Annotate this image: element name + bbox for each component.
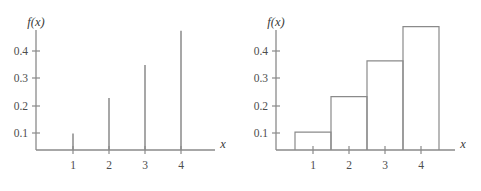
histogram-panel: 0.1 0.2 0.3 0.4 1 2 3 4 f(x) x (240, 0, 480, 191)
right-xtick-label-1: 1 (310, 159, 316, 171)
left-ytick-label-3: 0.3 (14, 72, 29, 84)
left-ytick-label-2: 0.2 (14, 100, 29, 112)
histogram-bar-3 (367, 61, 403, 150)
histogram-bar-2 (331, 97, 367, 150)
left-ytick-label-4: 0.4 (14, 45, 29, 57)
stem-plot-svg: 0.1 0.2 0.3 0.4 1 2 3 4 f(x) x (0, 0, 240, 191)
histogram-bar-4 (403, 27, 439, 150)
right-xtick-label-2: 2 (346, 159, 352, 171)
right-x-axis-label: x (459, 137, 466, 151)
right-xtick-label-4: 4 (418, 159, 424, 171)
right-ytick-label-2: 0.2 (254, 100, 269, 112)
right-y-axis-label: f(x) (267, 15, 284, 29)
right-xtick-label-3: 3 (382, 159, 388, 171)
left-xtick-label-1: 1 (70, 159, 76, 171)
right-ytick-label-3: 0.3 (254, 72, 269, 84)
left-ytick-label-1: 0.1 (14, 127, 29, 139)
right-ytick-label-1: 0.1 (254, 127, 269, 139)
left-xtick-label-4: 4 (178, 159, 184, 171)
probability-distribution-figure: 0.1 0.2 0.3 0.4 1 2 3 4 f(x) x (0, 0, 481, 191)
right-ytick-label-4: 0.4 (254, 45, 269, 57)
left-y-axis-label: f(x) (27, 15, 44, 29)
left-xtick-label-3: 3 (142, 159, 148, 171)
stem-plot-panel: 0.1 0.2 0.3 0.4 1 2 3 4 f(x) x (0, 0, 240, 191)
left-x-axis-label: x (219, 137, 226, 151)
left-xtick-label-2: 2 (106, 159, 112, 171)
histogram-svg: 0.1 0.2 0.3 0.4 1 2 3 4 f(x) x (240, 0, 481, 191)
